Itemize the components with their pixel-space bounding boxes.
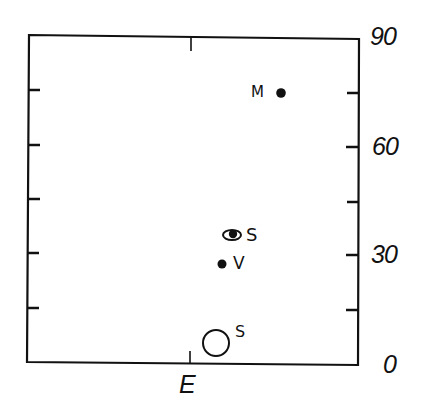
moon-label: M xyxy=(251,83,264,101)
y-tick-0: 0 xyxy=(383,350,396,379)
plot-frame xyxy=(27,35,359,365)
y-tick-60: 60 xyxy=(372,132,398,161)
sun-circle-icon xyxy=(203,330,229,356)
saturn-label: S xyxy=(246,224,257,245)
venus-dot-icon xyxy=(218,260,227,269)
y-tick-30: 30 xyxy=(371,240,397,269)
sun-label: S xyxy=(235,322,245,341)
saturn-symbol-icon xyxy=(223,230,241,240)
sky-diagram xyxy=(0,0,423,419)
left-ticks xyxy=(28,90,40,308)
right-ticks xyxy=(346,93,359,310)
moon-dot-icon xyxy=(276,88,286,98)
x-label-east: E xyxy=(179,370,196,399)
y-tick-90: 90 xyxy=(370,22,396,51)
venus-label: V xyxy=(233,253,245,273)
